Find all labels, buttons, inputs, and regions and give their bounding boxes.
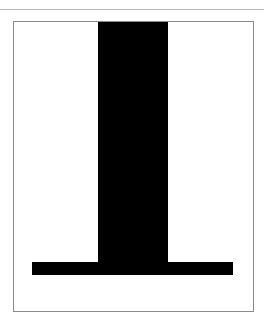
vertical-stem-shape	[98, 22, 168, 263]
horizontal-base-shape	[32, 262, 233, 275]
top-divider-line	[0, 9, 264, 10]
figure-frame	[13, 21, 254, 312]
